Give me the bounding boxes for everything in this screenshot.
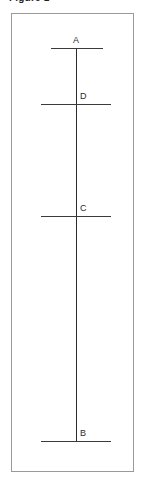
diagram-canvas: ADCB <box>12 14 133 471</box>
tick-b <box>41 441 111 442</box>
tick-a <box>51 48 103 49</box>
label-c: C <box>80 204 87 213</box>
label-b: B <box>80 429 86 438</box>
label-d: D <box>80 92 87 101</box>
tick-c <box>41 216 111 217</box>
figure-frame: ADCB <box>11 13 134 472</box>
label-a: A <box>73 36 79 45</box>
figure-title: Figure 1 <box>9 0 50 3</box>
main-vertical-line <box>76 48 77 441</box>
tick-d <box>41 104 111 105</box>
